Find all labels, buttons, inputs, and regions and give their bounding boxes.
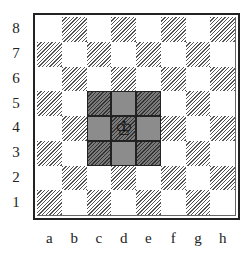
square-g4 xyxy=(186,116,211,141)
file-label-e: e xyxy=(136,230,160,247)
square-c6 xyxy=(87,67,112,92)
square-f1 xyxy=(161,190,186,215)
square-g1 xyxy=(186,190,211,215)
file-label-a: a xyxy=(37,230,61,247)
square-g3 xyxy=(186,141,211,166)
square-a3 xyxy=(37,141,62,166)
square-b6 xyxy=(62,67,87,92)
square-e8 xyxy=(136,17,161,42)
square-c1 xyxy=(87,190,112,215)
square-d4: ♔ xyxy=(111,116,136,141)
square-c2 xyxy=(87,166,112,191)
square-f4 xyxy=(161,116,186,141)
square-g5 xyxy=(186,91,211,116)
square-h2 xyxy=(210,166,235,191)
square-g6 xyxy=(186,67,211,92)
square-a4 xyxy=(37,116,62,141)
square-g7 xyxy=(186,42,211,67)
file-label-d: d xyxy=(112,230,136,247)
square-d5 xyxy=(111,91,136,116)
square-d8 xyxy=(111,17,136,42)
square-e1 xyxy=(136,190,161,215)
square-f7 xyxy=(161,42,186,67)
square-e3 xyxy=(136,141,161,166)
square-h8 xyxy=(210,17,235,42)
square-f3 xyxy=(161,141,186,166)
square-c4 xyxy=(87,116,112,141)
square-e7 xyxy=(136,42,161,67)
square-e6 xyxy=(136,67,161,92)
square-a1 xyxy=(37,190,62,215)
square-e4 xyxy=(136,116,161,141)
square-d1 xyxy=(111,190,136,215)
square-a8 xyxy=(37,17,62,42)
square-f2 xyxy=(161,166,186,191)
square-h3 xyxy=(210,141,235,166)
square-d3 xyxy=(111,141,136,166)
rank-label-2: 2 xyxy=(8,169,24,186)
square-b1 xyxy=(62,190,87,215)
square-b8 xyxy=(62,17,87,42)
square-d2 xyxy=(111,166,136,191)
square-g8 xyxy=(186,17,211,42)
square-h7 xyxy=(210,42,235,67)
square-g2 xyxy=(186,166,211,191)
file-label-f: f xyxy=(161,230,185,247)
square-h6 xyxy=(210,67,235,92)
file-label-c: c xyxy=(87,230,111,247)
square-f5 xyxy=(161,91,186,116)
square-d6 xyxy=(111,67,136,92)
square-c3 xyxy=(87,141,112,166)
square-a6 xyxy=(37,67,62,92)
square-b2 xyxy=(62,166,87,191)
square-d7 xyxy=(111,42,136,67)
square-b4 xyxy=(62,116,87,141)
file-label-b: b xyxy=(62,230,86,247)
square-e2 xyxy=(136,166,161,191)
rank-label-1: 1 xyxy=(8,194,24,211)
square-a2 xyxy=(37,166,62,191)
rank-label-4: 4 xyxy=(8,119,24,136)
square-h5 xyxy=(210,91,235,116)
rank-label-8: 8 xyxy=(8,20,24,37)
square-a5 xyxy=(37,91,62,116)
square-b3 xyxy=(62,141,87,166)
square-b7 xyxy=(62,42,87,67)
chess-board: ♔ xyxy=(37,17,235,215)
square-e5 xyxy=(136,91,161,116)
file-label-g: g xyxy=(186,230,210,247)
rank-label-6: 6 xyxy=(8,70,24,87)
square-c5 xyxy=(87,91,112,116)
file-label-h: h xyxy=(211,230,235,247)
square-h4 xyxy=(210,116,235,141)
square-c7 xyxy=(87,42,112,67)
square-f8 xyxy=(161,17,186,42)
square-b5 xyxy=(62,91,87,116)
square-h1 xyxy=(210,190,235,215)
square-c8 xyxy=(87,17,112,42)
square-f6 xyxy=(161,67,186,92)
rank-label-3: 3 xyxy=(8,144,24,161)
rank-label-7: 7 xyxy=(8,45,24,62)
rank-label-5: 5 xyxy=(8,95,24,112)
square-a7 xyxy=(37,42,62,67)
king-icon: ♔ xyxy=(112,117,135,140)
